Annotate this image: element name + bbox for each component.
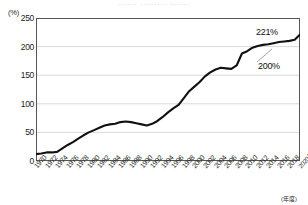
y-axis-tick: 0 bbox=[4, 156, 34, 166]
y-axis-tick: 150 bbox=[4, 70, 34, 80]
x-axis-unit-note: (年度) bbox=[281, 194, 297, 203]
y-axis-tick: 200 bbox=[4, 42, 34, 52]
value-callout: 221% bbox=[256, 27, 278, 37]
y-axis-tick: 250 bbox=[4, 13, 34, 23]
data-line-debt-ratio bbox=[36, 35, 300, 155]
y-axis-tick: 50 bbox=[4, 127, 34, 137]
cropped-header-text: ······ ········ ······ bbox=[0, 0, 308, 5]
chart-svg bbox=[36, 18, 300, 161]
plot-area bbox=[36, 18, 300, 161]
value-callout: 200% bbox=[258, 61, 280, 71]
y-axis-tick: 100 bbox=[4, 99, 34, 109]
y-axis-tick-labels: 050100150200250 bbox=[0, 0, 34, 205]
chart-container: ······ ········ ······ (%) 0501001502002… bbox=[0, 0, 308, 205]
